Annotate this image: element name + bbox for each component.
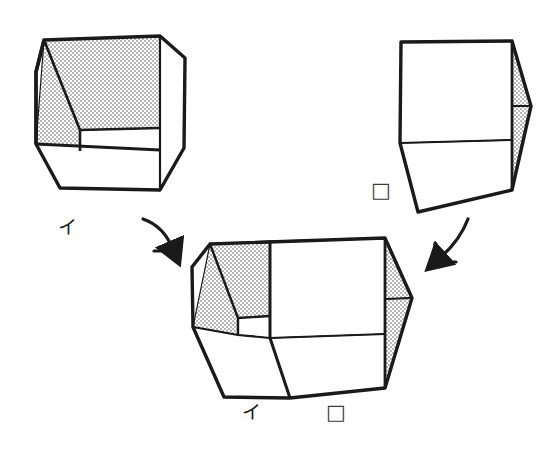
label-right-cube: □	[371, 180, 391, 201]
left-cube-group	[36, 36, 185, 190]
label-left-cube: イ	[58, 218, 77, 237]
label-combined-left: イ	[242, 403, 261, 422]
left-cube-front-face	[36, 144, 160, 190]
arrow-down-right-icon	[143, 219, 172, 247]
arrow-left-group	[143, 219, 175, 251]
arrow-right-group	[435, 219, 468, 262]
arrow-down-left-icon	[441, 219, 468, 257]
figure-canvas: イ □ イ □	[0, 0, 544, 458]
combined-box-group	[192, 238, 412, 398]
right-cube-back-wall	[400, 41, 512, 143]
combined-right-back-wall	[270, 238, 385, 338]
right-cube-group	[400, 41, 531, 212]
figure-diagram	[0, 0, 544, 458]
label-combined-right: □	[326, 402, 346, 423]
combined-right-wall-split	[385, 298, 412, 299]
